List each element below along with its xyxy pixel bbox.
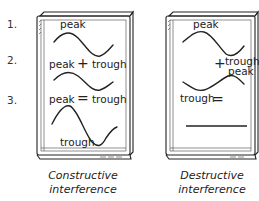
constructive-box: peak peak + trough peak = trough trough bbox=[37, 12, 133, 159]
destructive-peak-label: peak bbox=[193, 18, 220, 30]
constructive-wave-2 bbox=[54, 73, 113, 91]
step-3-label: 3. bbox=[7, 94, 17, 106]
destructive-wave-1 bbox=[183, 32, 244, 56]
constructive-trough-label: trough bbox=[60, 136, 95, 148]
constructive-caption-line2: interference bbox=[49, 183, 117, 196]
destructive-caption-line2: interference bbox=[178, 183, 246, 196]
interference-diagram: 1. 2. 3. peak peak + trough peak = troug… bbox=[0, 0, 259, 201]
destructive-caption-line1: Destructive bbox=[180, 169, 244, 182]
destructive-row2-trough: trough bbox=[180, 92, 215, 104]
constructive-row2-peak: peak bbox=[49, 93, 76, 105]
destructive-wave-2 bbox=[183, 75, 244, 90]
constructive-row1-peak: peak bbox=[49, 58, 76, 70]
constructive-row2-trough: trough bbox=[92, 93, 127, 105]
step-2-label: 2. bbox=[7, 54, 17, 66]
constructive-peak-label: peak bbox=[60, 18, 87, 30]
destructive-equals-sign: = bbox=[212, 91, 224, 107]
destructive-box: peak + trough peak trough = bbox=[166, 12, 259, 159]
constructive-wave-1 bbox=[54, 33, 113, 56]
destructive-plus-sign: + bbox=[214, 55, 226, 71]
constructive-plus-sign: + bbox=[77, 55, 89, 71]
constructive-caption-line1: Constructive bbox=[48, 169, 118, 182]
constructive-equals-sign: = bbox=[77, 90, 89, 106]
step-1-label: 1. bbox=[7, 18, 17, 30]
constructive-row1-trough: trough bbox=[92, 58, 127, 70]
